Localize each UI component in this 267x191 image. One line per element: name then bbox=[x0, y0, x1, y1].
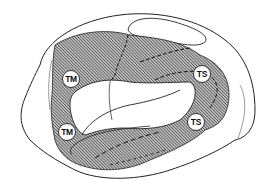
label-tm-upper: TM bbox=[62, 70, 80, 88]
brain-diagram bbox=[0, 0, 267, 191]
label-tm-lower: TM bbox=[58, 123, 76, 141]
label-ts-lower: TS bbox=[187, 113, 205, 131]
label-ts-upper: TS bbox=[193, 65, 211, 83]
